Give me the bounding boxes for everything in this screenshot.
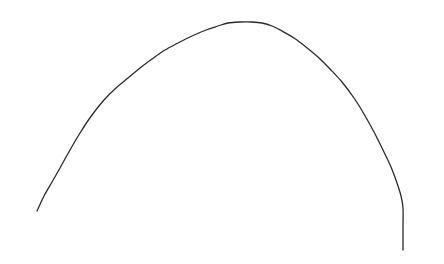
- plot-background: [0, 0, 444, 264]
- curve-plot: [0, 0, 444, 264]
- figure-canvas: [0, 0, 444, 264]
